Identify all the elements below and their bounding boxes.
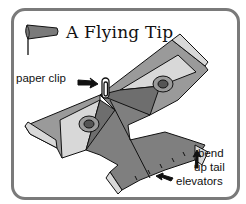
- windsock-icon: [26, 25, 58, 55]
- page-title: A Flying Tip: [66, 22, 173, 42]
- paper-clip-icon: [102, 78, 109, 98]
- up-tail-label: up tail: [194, 161, 225, 174]
- bend-label: bend: [198, 147, 224, 160]
- paper-clip-label: paper clip: [16, 72, 66, 85]
- arrow-left-icon: [156, 173, 173, 181]
- paper-airplane-illustration: [25, 34, 208, 194]
- arrow-right-icon: [78, 78, 98, 88]
- elevators-label: elevators: [176, 175, 223, 188]
